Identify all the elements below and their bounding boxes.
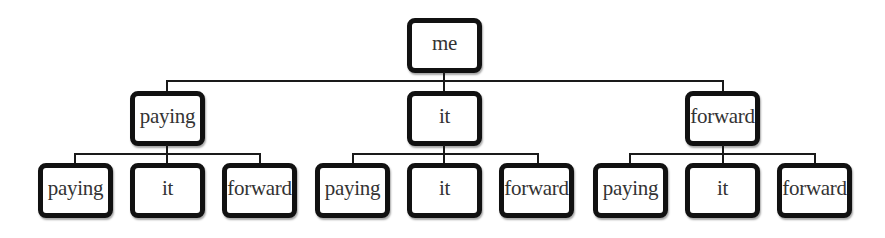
- node-label: paying: [603, 178, 658, 199]
- node-label: forward: [227, 178, 291, 199]
- tree-diagram: me paying it forward paying it forward p…: [0, 0, 885, 238]
- node-label: forward: [504, 178, 568, 199]
- connector-to-paying: [166, 80, 168, 91]
- connector-group3-leaf3: [814, 153, 816, 163]
- node-leaf-it: it: [130, 163, 205, 218]
- node-leaf-forward: forward: [222, 163, 297, 218]
- node-leaf-paying: paying: [315, 163, 390, 218]
- connector-group1-leaf1: [74, 153, 76, 163]
- node-leaf-paying: paying: [593, 163, 668, 218]
- node-label: me: [432, 33, 457, 54]
- node-label: it: [439, 178, 450, 199]
- node-label: forward: [782, 178, 846, 199]
- node-label: paying: [48, 178, 103, 199]
- connector-group3-leaf1: [629, 153, 631, 163]
- node-root: me: [407, 18, 482, 73]
- connector-level1-horizontal: [166, 80, 724, 82]
- connector-to-forward: [722, 80, 724, 91]
- connector-group1-leaf2: [166, 153, 168, 163]
- node-leaf-paying: paying: [38, 163, 113, 218]
- node-leaf-it: it: [685, 163, 760, 218]
- connector-group3-leaf2: [722, 153, 724, 163]
- node-label: paying: [140, 106, 195, 127]
- node-label: paying: [325, 178, 380, 199]
- node-leaf-forward: forward: [499, 163, 574, 218]
- node-level1-paying: paying: [130, 91, 205, 146]
- node-leaf-forward: forward: [777, 163, 852, 218]
- connector-group1-leaf3: [259, 153, 261, 163]
- node-label: it: [162, 178, 173, 199]
- connector-group2-horizontal: [352, 153, 539, 155]
- node-leaf-it: it: [407, 163, 482, 218]
- node-level1-it: it: [407, 91, 482, 146]
- connector-group2-leaf3: [537, 153, 539, 163]
- node-label: it: [717, 178, 728, 199]
- connector-to-it: [443, 80, 445, 91]
- connector-group2-leaf1: [352, 153, 354, 163]
- node-level1-forward: forward: [685, 91, 760, 146]
- connector-group2-leaf2: [443, 153, 445, 163]
- node-label: it: [439, 106, 450, 127]
- node-label: forward: [690, 106, 754, 127]
